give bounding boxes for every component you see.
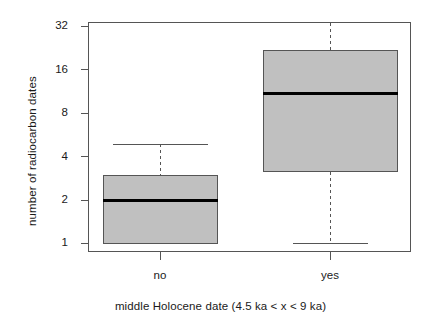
box-yes	[264, 51, 398, 172]
boxplot-figure: number of radiocarbon dates 32 16 8 4 2 …	[0, 0, 441, 327]
box-group-yes	[263, 23, 398, 244]
plot-canvas	[0, 0, 441, 327]
y-axis-ticks	[81, 27, 88, 244]
box-group-no	[103, 144, 218, 244]
x-axis-ticks	[161, 252, 331, 260]
box-no	[104, 176, 218, 244]
